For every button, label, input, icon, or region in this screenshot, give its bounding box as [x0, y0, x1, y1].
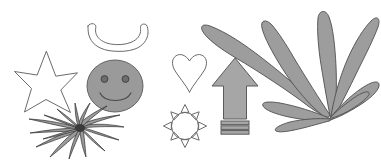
smiley-right-eye-icon	[122, 76, 129, 83]
clipart-svg	[0, 0, 381, 163]
smiley-left-eye-icon	[101, 76, 108, 83]
grass-burst-center	[75, 124, 85, 132]
arrow-stripe-1	[221, 121, 249, 125]
smiley-face-icon	[87, 60, 143, 112]
smiley-face-disc	[87, 60, 143, 112]
clipart-canvas: Assorted clipart shapes	[0, 0, 381, 163]
arrow-stripe-2	[221, 126, 249, 130]
arrow-stripe-3	[221, 131, 249, 135]
